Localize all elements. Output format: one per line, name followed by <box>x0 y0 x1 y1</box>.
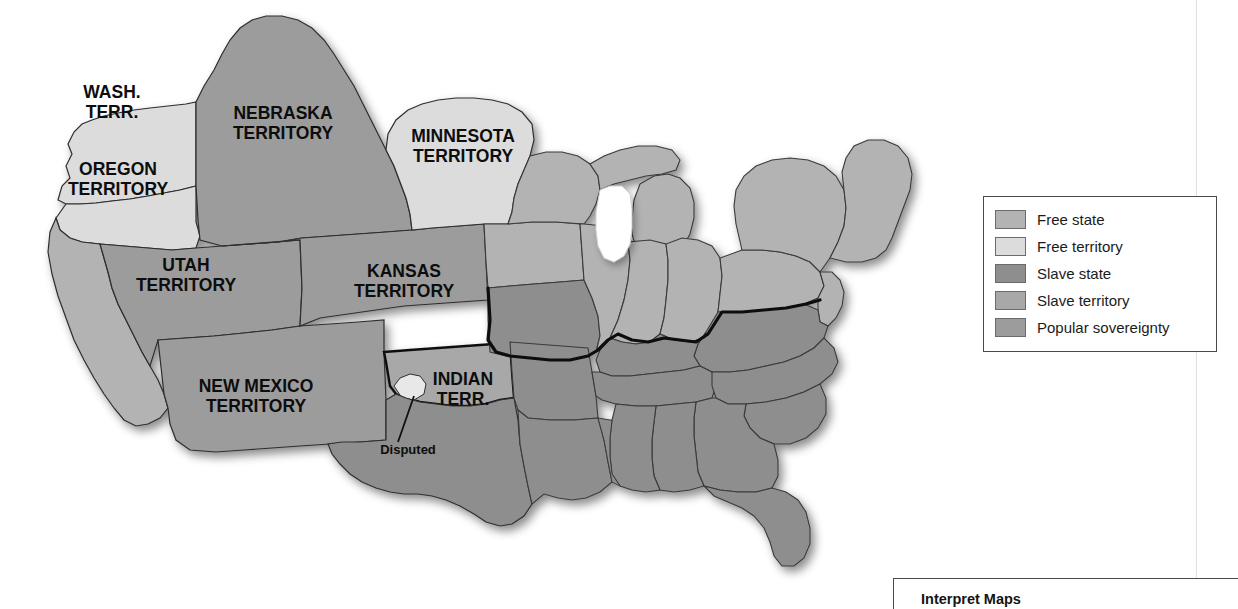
legend-label-free-state: Free state <box>1037 212 1105 227</box>
region-new-jersey <box>818 272 844 326</box>
lake-michigan <box>596 186 632 262</box>
map-label-kansas-terr: KANSASTERRITORY <box>354 261 454 301</box>
legend-item-free-territory: Free territory <box>995 233 1206 260</box>
map-legend: Free state Free territory Slave state Sl… <box>983 196 1217 352</box>
legend-label-slave-territory: Slave territory <box>1037 293 1130 308</box>
map-svg: WASH.TERR.OREGONTERRITORYNEBRASKATERRITO… <box>0 0 960 600</box>
legend-label-slave-state: Slave state <box>1037 266 1111 281</box>
legend-swatch-popular-sovereignty <box>995 318 1026 337</box>
legend-label-popular-sovereignty: Popular sovereignty <box>1037 320 1170 335</box>
legend-swatch-free-territory <box>995 237 1026 256</box>
map-label-nebraska: NEBRASKATERRITORY <box>233 103 333 143</box>
region-florida <box>704 486 810 566</box>
interpret-maps-title: Interpret Maps <box>921 591 1021 607</box>
map-label-wash-terr: WASH.TERR. <box>83 82 140 122</box>
map-label-new-mexico: NEW MEXICOTERRITORY <box>199 376 314 416</box>
region-arkansas <box>510 342 598 420</box>
legend-item-popular-sovereignty: Popular sovereignty <box>995 314 1206 341</box>
region-iowa <box>484 222 584 288</box>
map-label-minnesota: MINNESOTATERRITORY <box>411 126 515 166</box>
legend-swatch-free-state <box>995 210 1026 229</box>
interpret-maps-box: Interpret Maps <box>893 578 1238 609</box>
map-label-disputed: Disputed <box>380 442 436 457</box>
historical-map: WASH.TERR.OREGONTERRITORYNEBRASKATERRITO… <box>0 0 960 600</box>
legend-label-free-territory: Free territory <box>1037 239 1123 254</box>
map-label-oregon-terr: OREGONTERRITORY <box>68 159 168 199</box>
legend-item-slave-territory: Slave territory <box>995 287 1206 314</box>
region-mississippi <box>610 404 660 492</box>
legend-swatch-slave-state <box>995 264 1026 283</box>
legend-item-free-state: Free state <box>995 206 1206 233</box>
legend-swatch-slave-territory <box>995 291 1026 310</box>
map-label-indian-terr: INDIANTERR. <box>433 369 493 409</box>
legend-item-slave-state: Slave state <box>995 260 1206 287</box>
region-louisiana <box>518 410 612 504</box>
